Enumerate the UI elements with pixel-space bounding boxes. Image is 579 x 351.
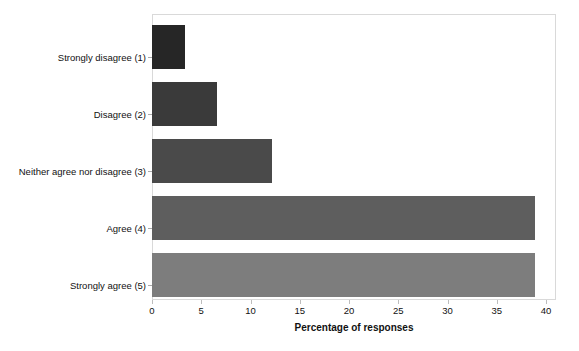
x-axis-tick-mark-4 (349, 300, 350, 304)
bar-strongly-agree (152, 253, 535, 297)
x-axis-tick-mark-5 (398, 300, 399, 304)
y-axis-label-1: Disagree (2) (0, 109, 146, 120)
bar-row-2 (152, 139, 272, 183)
x-axis-tick-label-1: 5 (186, 305, 216, 317)
y-axis-label-0: Strongly disagree (1) (0, 52, 146, 63)
bar-row-0 (152, 25, 185, 69)
x-axis-tick-mark-6 (448, 300, 449, 304)
x-axis-tick-mark-8 (546, 300, 547, 304)
x-axis-tick-mark-0 (152, 300, 153, 304)
y-axis-label-3: Agree (4) (0, 223, 146, 234)
bars-layer (152, 14, 556, 300)
x-axis-tick-label-0: 0 (137, 305, 167, 317)
x-axis-tick-label-3: 15 (285, 305, 315, 317)
bar-row-4 (152, 253, 535, 297)
bar-agree (152, 196, 535, 240)
x-axis-tick-label-5: 25 (383, 305, 413, 317)
x-axis-tick-mark-7 (497, 300, 498, 304)
x-axis-title: Percentage of responses (152, 322, 556, 333)
x-axis-tick-mark-3 (300, 300, 301, 304)
bar-chart: Strongly disagree (1) Disagree (2) Neith… (0, 0, 579, 351)
x-axis-tick-label-4: 20 (334, 305, 364, 317)
bar-neither-agree-nor-disagree (152, 139, 272, 183)
bar-disagree (152, 82, 217, 126)
x-axis-tick-label-7: 35 (482, 305, 512, 317)
x-axis-tick-label-6: 30 (433, 305, 463, 317)
bar-row-1 (152, 82, 217, 126)
y-axis-category-labels: Strongly disagree (1) Disagree (2) Neith… (0, 14, 146, 300)
x-axis-tick-mark-2 (251, 300, 252, 304)
x-axis-tick-mark-1 (201, 300, 202, 304)
x-axis-tick-label-2: 10 (236, 305, 266, 317)
bar-strongly-disagree (152, 25, 185, 69)
y-axis-label-2: Neither agree nor disagree (3) (0, 166, 146, 177)
bar-row-3 (152, 196, 535, 240)
y-axis-label-4: Strongly agree (5) (0, 280, 146, 291)
x-axis-tick-label-8: 40 (531, 305, 561, 317)
